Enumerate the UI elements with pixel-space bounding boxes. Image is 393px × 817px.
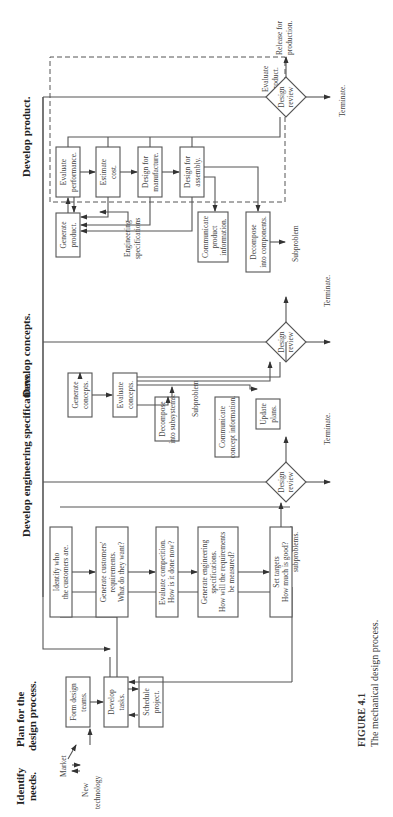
box-update-plans: Update plans. [256, 399, 280, 429]
box-generate-concepts: Generate concepts. [68, 373, 92, 417]
svg-text:Generate customers': Generate customers' [99, 541, 108, 602]
svg-text:technology: technology [93, 775, 102, 809]
svg-text:How is it done now?: How is it done now? [167, 540, 176, 603]
needs-inputs: Market New technology [59, 729, 102, 809]
svg-text:performance.: performance. [69, 152, 78, 192]
terminate-specs: Terminate. [323, 413, 332, 445]
svg-text:tasks.: tasks. [117, 693, 126, 710]
new-tech-label: New [81, 782, 90, 797]
phase-header-identify-needs: Identify needs. [14, 767, 38, 805]
box-develop-tasks: Develop tasks. [104, 677, 128, 727]
mechanical-design-process-diagram: Identify needs. Plan for the design proc… [0, 0, 393, 817]
svg-text:Generate: Generate [71, 381, 80, 409]
evaluate-product-label: Evaluate [261, 65, 270, 92]
svg-text:product: product [210, 225, 219, 249]
design-review-specs: Design review [266, 462, 306, 502]
svg-text:How will the requirements: How will the requirements [218, 532, 227, 612]
svg-text:Identify who: Identify who [52, 552, 61, 591]
box-schedule-project: Schedule project. [139, 677, 163, 727]
svg-text:Design: Design [277, 86, 286, 107]
svg-text:Develop: Develop [107, 689, 116, 715]
phase-header-concepts: Develop concepts. [20, 313, 32, 397]
phase-header-plan: Plan for the design process. [14, 681, 38, 751]
box-generate-eng-specs: Generate engineering specifications. How… [198, 527, 238, 617]
svg-text:Decompose: Decompose [158, 401, 167, 437]
terminate-concepts: Terminate. [323, 275, 332, 307]
svg-text:product.: product. [69, 222, 78, 247]
concept-subproblem-label: Subproblem [191, 380, 200, 417]
svg-text:How much is good?: How much is good? [281, 541, 290, 602]
box-decompose-components: Decompose into components. [246, 212, 270, 272]
svg-text:Schedule: Schedule [142, 688, 151, 716]
svg-text:Generate engineering: Generate engineering [200, 540, 209, 605]
svg-text:Evaluate: Evaluate [59, 158, 68, 185]
market-label: Market [59, 754, 68, 777]
svg-text:Release for: Release for [275, 21, 284, 55]
svg-text:production.: production. [285, 21, 294, 55]
svg-text:Form design: Form design [69, 683, 78, 721]
svg-text:information.: information. [219, 218, 228, 255]
svg-text:be measured?: be measured? [227, 551, 236, 593]
box-decompose-subsystems: Decompose into subsystems. [155, 394, 179, 444]
svg-text:Evaluate competition.: Evaluate competition. [158, 539, 167, 605]
box-design-for-assembly: Design for assembly. [180, 147, 204, 197]
box-set-targets: Set targets How much is good? [270, 527, 292, 617]
box-communicate-concept-info: Communicate concept information. [215, 396, 239, 459]
svg-text:What do they want?: What do they want? [117, 541, 126, 602]
box-form-design-teams: Form design teams. [66, 677, 90, 727]
phase-header-eng-specs: Develop engineering specifications. [20, 373, 32, 537]
svg-text:plans.: plans. [269, 405, 278, 423]
svg-text:Identify: Identify [14, 767, 26, 805]
svg-text:project.: project. [152, 691, 161, 714]
svg-text:requirements.: requirements. [108, 551, 117, 592]
box-identify-customers: Identify who the customers are. [50, 527, 72, 617]
svg-text:needs.: needs. [26, 772, 38, 801]
terminate-product: Terminate. [338, 85, 347, 117]
svg-text:Update: Update [259, 403, 268, 425]
figure-caption: FIGURE 4.1 The mechanical design process… [356, 620, 380, 747]
svg-text:concept information.: concept information. [228, 396, 237, 459]
svg-text:Design: Design [277, 331, 286, 352]
svg-text:concepts.: concepts. [81, 381, 90, 409]
svg-text:review: review [286, 331, 295, 352]
svg-text:concepts.: concepts. [126, 381, 135, 409]
svg-text:specifications.: specifications. [209, 550, 218, 593]
svg-text:the customers are.: the customers are. [61, 545, 70, 599]
svg-text:into subsystems.: into subsystems. [168, 394, 177, 444]
box-estimate-cost: Estimate cost. [96, 147, 120, 197]
box-generate-product: Generate product. [56, 213, 80, 257]
figure-label: FIGURE 4.1 [356, 693, 367, 747]
svg-text:teams.: teams. [79, 692, 88, 711]
svg-text:cost.: cost. [109, 165, 118, 179]
svg-text:Decompose: Decompose [249, 224, 258, 260]
evaluate-product-group [50, 57, 285, 202]
svg-text:Generate: Generate [59, 221, 68, 249]
box-evaluate-concepts: Evaluate concepts. [113, 373, 137, 417]
svg-text:Communicate: Communicate [218, 405, 227, 448]
svg-text:Design for: Design for [141, 156, 150, 188]
svg-text:review: review [286, 471, 295, 492]
phase-header-product: Develop product. [20, 96, 32, 177]
figure-text: The mechanical design process. [369, 620, 380, 747]
svg-text:Plan for the: Plan for the [14, 691, 26, 747]
box-evaluate-competition: Evaluate competition. How is it done now… [156, 527, 178, 617]
spine-to-develop-tasks [43, 627, 110, 649]
eng-specs-input-label: Engineering [123, 220, 132, 257]
svg-text:review: review [286, 86, 295, 107]
svg-text:Design: Design [277, 471, 286, 492]
svg-text:Estimate: Estimate [99, 158, 108, 185]
svg-text:Communicate: Communicate [201, 215, 210, 258]
box-communicate-product-info: Communicate product information. [198, 212, 228, 262]
svg-text:manufacture.: manufacture. [151, 152, 160, 191]
svg-text:specifications: specifications [133, 218, 142, 259]
release-for-production: Release for production. [275, 21, 294, 55]
svg-text:assembly.: assembly. [193, 157, 202, 186]
box-evaluate-performance: Evaluate performance. [56, 147, 80, 197]
svg-text:design process.: design process. [26, 681, 38, 751]
product-subproblem-label: Subproblem [291, 225, 300, 262]
box-design-for-manufacture: Design for manufacture. [138, 147, 162, 197]
svg-text:Evaluate: Evaluate [116, 381, 125, 408]
svg-text:Set targets: Set targets [272, 556, 281, 587]
box-generate-requirements: Generate customers' requirements. What d… [96, 527, 128, 617]
svg-text:into components.: into components. [259, 216, 268, 268]
